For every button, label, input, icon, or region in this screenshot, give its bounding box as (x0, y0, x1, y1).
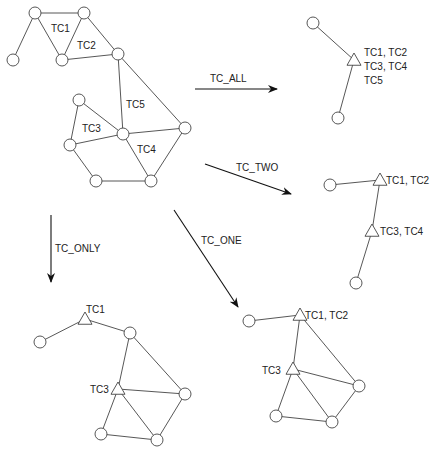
tc-label: TC3 (262, 365, 281, 376)
result-tc-all: TC1, TC2TC3, TC4TC5 (307, 17, 408, 124)
tc-label: TC5 (126, 99, 145, 110)
result-tc-only: TC1TC3 (34, 304, 191, 446)
graph-edge (276, 416, 332, 422)
node-circle-icon (145, 175, 157, 187)
graph-edge (293, 369, 332, 422)
graph-edge (118, 54, 185, 128)
arrow-label: TC_ALL (210, 73, 247, 84)
node-circle-icon (326, 416, 338, 428)
graph-edge (123, 134, 151, 181)
node-circle-icon (95, 428, 107, 440)
node-circle-icon (117, 128, 129, 140)
graph-edge (101, 389, 118, 434)
node-circle-icon (34, 336, 46, 348)
result-tc-two: TC1, TC2TC3, TC4 (324, 173, 430, 289)
tc-label: TC3 (90, 384, 109, 395)
graph-edge (62, 13, 84, 60)
node-triangle-icon (286, 362, 300, 374)
tc-label: TC4 (137, 144, 156, 155)
node-circle-icon (151, 434, 163, 446)
tc-label: TC1, TC2 (305, 310, 349, 321)
graph-edge (40, 319, 85, 342)
graph-edge (35, 13, 62, 60)
node-circle-icon (29, 7, 41, 19)
transform-arrows: TC_ALLTC_TWOTC_ONETC_ONLY (51, 73, 291, 307)
graph-edge (118, 389, 185, 394)
graph-edge (151, 128, 185, 181)
tc-label: TC3, TC4 (364, 61, 408, 72)
graph-edge (62, 54, 118, 60)
arrow-label: TC_ONE (201, 235, 242, 246)
node-triangle-icon (365, 224, 379, 236)
graph-edge (249, 315, 300, 321)
graph-edge (332, 386, 359, 422)
graph-edge (118, 54, 123, 134)
graph-edge (293, 369, 359, 386)
graph-edge (293, 315, 300, 369)
node-circle-icon (90, 175, 102, 187)
arrow-label: TC_ONLY (55, 243, 101, 254)
graph-edge (300, 315, 359, 386)
tc-label: TC3, TC4 (380, 226, 424, 237)
node-circle-icon (324, 179, 336, 191)
node-triangle-icon (373, 173, 387, 185)
source-graph: TC1TC2TC5TC3TC4 (7, 7, 191, 187)
graph-edge (70, 134, 123, 145)
node-circle-icon (243, 315, 255, 327)
graph-edge (85, 319, 130, 333)
node-triangle-icon (347, 53, 361, 65)
graph-edge (123, 128, 185, 134)
graph-edge (70, 100, 79, 145)
node-triangle-icon (111, 382, 125, 394)
graph-edge (157, 394, 185, 440)
node-circle-icon (78, 7, 90, 19)
graph-edge (356, 231, 372, 283)
diagram-canvas: TC1TC2TC5TC3TC4 TC_ALLTC_TWOTC_ONETC_ONL… (0, 0, 432, 455)
graph-edge (118, 333, 130, 389)
node-circle-icon (270, 410, 282, 422)
node-circle-icon (73, 94, 85, 106)
node-circle-icon (179, 122, 191, 134)
node-circle-icon (124, 327, 136, 339)
tc-label: TC1, TC2 (386, 175, 430, 186)
arrow-label: TC_TWO (236, 162, 278, 173)
node-circle-icon (350, 277, 362, 289)
tc-label: TC1, TC2 (364, 47, 408, 58)
graph-edge (313, 23, 354, 60)
graph-edge (130, 333, 185, 394)
node-circle-icon (7, 54, 19, 66)
graph-edge (372, 180, 380, 231)
tc-label: TC2 (77, 40, 96, 51)
graph-edge (70, 145, 96, 181)
tc-label: TC1 (86, 304, 105, 315)
graph-edge (276, 369, 293, 416)
node-circle-icon (64, 139, 76, 151)
tc-label: TC5 (364, 75, 383, 86)
tc-label: TC3 (82, 123, 101, 134)
node-circle-icon (56, 54, 68, 66)
graph-transform-diagram: TC1TC2TC5TC3TC4 TC_ALLTC_TWOTC_ONETC_ONL… (0, 0, 432, 455)
node-circle-icon (353, 380, 365, 392)
node-circle-icon (332, 112, 344, 124)
node-circle-icon (112, 48, 124, 60)
node-circle-icon (179, 388, 191, 400)
node-circle-icon (307, 17, 319, 29)
tc-label: TC1 (51, 23, 70, 34)
result-tc-one: TC1, TC2TC3 (243, 308, 365, 428)
arrow-tc-one (174, 210, 238, 307)
graph-edge (13, 13, 35, 60)
graph-edge (118, 389, 157, 440)
graph-edge (330, 180, 380, 185)
graph-edge (101, 434, 157, 440)
graph-edge (338, 60, 354, 118)
